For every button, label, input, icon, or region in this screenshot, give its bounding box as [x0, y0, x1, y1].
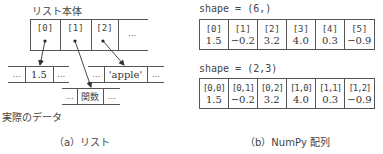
arrow-1-to-function	[73, 39, 91, 87]
array-cell: [3]4.0	[286, 20, 315, 50]
shape-1d-label: shape = (6,)	[199, 3, 271, 14]
array-cell: [1,2]−0.9	[344, 79, 374, 109]
array-cell: [0,0]1.5	[200, 79, 229, 109]
arrow-0-to-float	[40, 39, 47, 65]
array-cell: [2]3.2	[258, 20, 287, 50]
array-cell: [0,1]−0.2	[228, 79, 257, 109]
array-cell: [0,2]3.2	[257, 79, 286, 109]
array-cell: [1]−0.2	[228, 20, 257, 50]
array-1d-table: [0]1.5 [1]−0.2 [2]3.2 [3]4.0 [4]0.3 [5]−…	[199, 19, 375, 50]
caption-b: （b）NumPy 配列	[245, 134, 330, 149]
array-cell: [1,1]0.3	[316, 79, 345, 109]
actual-data-label: 実際のデータ	[2, 109, 62, 124]
array-2d-table: [0,0]1.5 [0,1]−0.2 [0,2]3.2 [1,0]4.0 [1,…	[199, 78, 375, 109]
caption-a: （a）リスト	[54, 134, 110, 149]
arrow-2-to-string	[101, 39, 124, 65]
array-cell: [1,0]4.0	[286, 79, 316, 109]
array-cell: [0]1.5	[200, 20, 229, 50]
array-cell: [4]0.3	[316, 20, 345, 50]
array-cell: [5]−0.9	[344, 20, 374, 50]
shape-2d-label: shape = (2,3)	[199, 63, 277, 74]
